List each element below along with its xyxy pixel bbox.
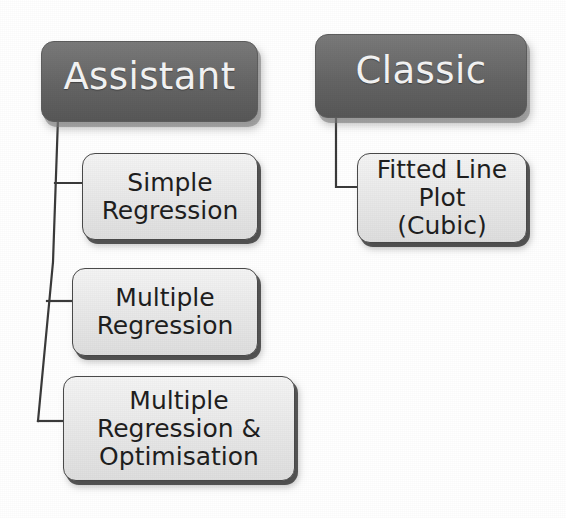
node-simple-regression[interactable]: Simple Regression — [82, 153, 258, 240]
node-multiple-regression-label: Multiple Regression — [97, 284, 234, 340]
node-fitted-line-plot-cubic-label: Fitted Line Plot (Cubic) — [377, 156, 507, 240]
node-assistant-root-label: Assistant — [63, 58, 235, 106]
node-simple-regression-label: Simple Regression — [102, 169, 239, 225]
node-multiple-regression-optimisation[interactable]: Multiple Regression & Optimisation — [63, 376, 295, 481]
connector-assistant-trunk — [38, 118, 58, 421]
node-multiple-regression[interactable]: Multiple Regression — [72, 268, 258, 356]
connector-classic-trunk — [336, 112, 359, 187]
node-multiple-regression-optimisation-label: Multiple Regression & Optimisation — [97, 387, 261, 471]
node-assistant-root[interactable]: Assistant — [41, 41, 258, 122]
diagram-canvas: Assistant Simple Regression Multiple Reg… — [0, 0, 566, 518]
node-fitted-line-plot-cubic[interactable]: Fitted Line Plot (Cubic) — [357, 153, 527, 243]
node-classic-root[interactable]: Classic — [315, 34, 527, 118]
node-classic-root-label: Classic — [356, 52, 487, 100]
